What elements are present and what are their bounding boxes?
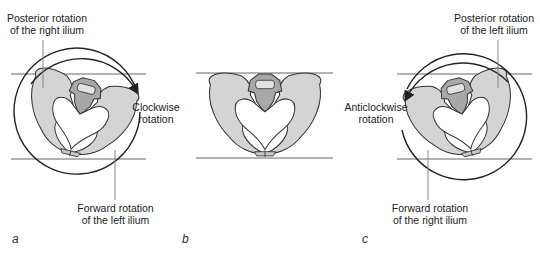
panel-c-rotation-label: Anticlockwise rotation — [344, 101, 408, 125]
panel-a-graphics — [11, 40, 146, 200]
panel-a-top-label: Posterior rotation of the right ilium — [5, 12, 89, 36]
panel-c-top-label: Posterior rotation of the left ilium — [452, 12, 536, 36]
pelvic-rotation-figure: Posterior rotation of the right ilium Cl… — [0, 0, 540, 253]
panel-c-bottom-label: Forward rotation of the right ilium — [385, 202, 475, 226]
panel-b-graphics — [196, 73, 333, 158]
panel-a-bottom-label: Forward rotation of the left ilium — [73, 202, 158, 226]
panel-a-letter: a — [12, 232, 19, 246]
panel-c-letter: c — [362, 232, 368, 246]
panel-b-letter: b — [182, 232, 189, 246]
panel-c-graphics — [397, 40, 532, 200]
panel-a-rotation-label: Clockwise rotation — [132, 101, 180, 125]
